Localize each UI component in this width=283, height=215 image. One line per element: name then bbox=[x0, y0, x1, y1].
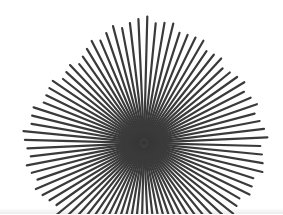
center-hub bbox=[114, 121, 174, 165]
spokes-group bbox=[24, 17, 268, 215]
starburst-sculpture bbox=[0, 0, 283, 214]
